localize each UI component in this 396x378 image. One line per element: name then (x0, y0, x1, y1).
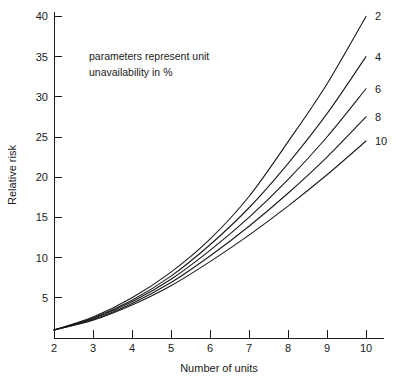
x-tick-label-9: 9 (324, 342, 330, 354)
y-axis-title: Relative risk (6, 145, 18, 205)
y-tick-label-30: 30 (36, 91, 48, 103)
curve-10 (54, 141, 366, 330)
curve-4 (54, 57, 366, 330)
x-tick-label-7: 7 (246, 342, 252, 354)
y-tick-label-40: 40 (36, 10, 48, 22)
curve-label-10: 10 (375, 135, 387, 147)
relative-risk-chart: 510152025303540 Relative risk 2345678910… (0, 0, 396, 378)
y-axis-group: 510152025303540 Relative risk (6, 10, 62, 338)
y-tick-marks (54, 16, 62, 297)
x-tick-label-3: 3 (90, 342, 96, 354)
curve-2 (54, 16, 366, 330)
annotation-block: parameters represent unit unavailability… (89, 50, 209, 78)
chart-canvas: 510152025303540 Relative risk 2345678910… (0, 0, 396, 378)
x-axis-title: Number of units (180, 362, 258, 374)
curve-end-labels: 246810 (375, 10, 387, 147)
y-tick-label-10: 10 (36, 252, 48, 264)
data-curves (54, 16, 366, 330)
x-tick-labels: 2345678910 (51, 342, 372, 354)
x-axis-group: 2345678910 Number of units (51, 330, 384, 374)
x-tick-label-5: 5 (168, 342, 174, 354)
curve-label-8: 8 (375, 111, 381, 123)
x-tick-label-8: 8 (285, 342, 291, 354)
curve-8 (54, 117, 366, 330)
x-tick-marks (54, 330, 366, 338)
annotation-line-2: unavailability in % (89, 66, 172, 78)
y-tick-label-35: 35 (36, 51, 48, 63)
y-tick-label-20: 20 (36, 171, 48, 183)
x-tick-label-10: 10 (360, 342, 372, 354)
curve-label-6: 6 (375, 83, 381, 95)
x-tick-label-6: 6 (207, 342, 213, 354)
y-tick-label-25: 25 (36, 131, 48, 143)
y-tick-label-15: 15 (36, 211, 48, 223)
x-tick-label-2: 2 (51, 342, 57, 354)
annotation-line-1: parameters represent unit (89, 50, 209, 62)
curve-label-4: 4 (375, 51, 381, 63)
y-tick-labels: 510152025303540 (36, 10, 48, 303)
curve-label-2: 2 (375, 10, 381, 22)
x-tick-label-4: 4 (129, 342, 135, 354)
y-tick-label-5: 5 (42, 292, 48, 304)
